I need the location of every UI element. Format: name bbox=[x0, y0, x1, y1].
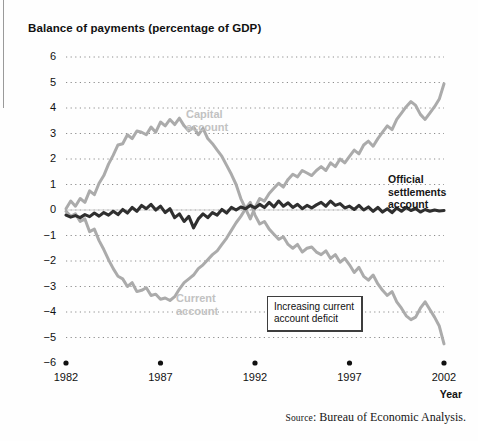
y-axis-tick-label: −6 bbox=[34, 356, 56, 368]
source-prefix: Source bbox=[285, 413, 313, 423]
y-axis-tick-label: −5 bbox=[34, 331, 56, 343]
series-label-capital-account: Capital account bbox=[186, 108, 228, 134]
y-axis-tick-label: −2 bbox=[34, 254, 56, 266]
series-label-current-line2: account bbox=[176, 305, 218, 318]
series-label-capital-line2: account bbox=[186, 121, 228, 134]
x-axis-tick-label: 1982 bbox=[36, 371, 96, 383]
annotation-increasing-current-account-deficit: Increasing current account deficit bbox=[267, 296, 363, 332]
x-axis-tick-label: 2002 bbox=[414, 371, 474, 383]
data-series-layer bbox=[66, 84, 444, 344]
series-label-official-settlements-account: Official settlements account bbox=[388, 173, 446, 211]
y-axis-tick-label: −1 bbox=[34, 229, 56, 241]
x-axis-tick-dot bbox=[252, 360, 257, 365]
plot-area: 6543210−1−2−3−4−5−6 19821987199219972002 bbox=[0, 0, 478, 441]
y-axis-tick-label: 1 bbox=[34, 178, 56, 190]
series-line-current-account bbox=[66, 202, 444, 344]
x-axis-tick-label: 1987 bbox=[131, 371, 191, 383]
x-axis-tick-dot bbox=[441, 360, 446, 365]
source-text: : Bureau of Economic Analysis. bbox=[313, 410, 466, 424]
series-label-capital-line1: Capital bbox=[186, 108, 228, 121]
source-note: Source: Bureau of Economic Analysis. bbox=[285, 410, 466, 425]
series-label-current-line1: Current bbox=[176, 292, 218, 305]
x-axis-title: Year bbox=[440, 388, 462, 400]
x-axis-tick-dot bbox=[63, 360, 68, 365]
y-axis-tick-label: 3 bbox=[34, 127, 56, 139]
x-axis-tick-dot bbox=[347, 360, 352, 365]
y-axis-tick-label: −4 bbox=[34, 305, 56, 317]
x-axis-tick-label: 1997 bbox=[320, 371, 380, 383]
y-axis-tick-label: −3 bbox=[34, 280, 56, 292]
series-label-current-account: Current account bbox=[176, 292, 218, 318]
chart-figure: Balance of payments (percentage of GDP) … bbox=[0, 0, 478, 441]
x-axis-tick-dot bbox=[158, 360, 163, 365]
series-label-official-line1: Official bbox=[388, 173, 446, 186]
y-axis-tick-label: 5 bbox=[34, 76, 56, 88]
series-label-official-line2: settlements bbox=[388, 186, 446, 199]
x-tick-marks bbox=[63, 360, 446, 365]
series-label-official-line3: account bbox=[388, 198, 446, 211]
y-axis-tick-label: 2 bbox=[34, 152, 56, 164]
x-axis-tick-label: 1992 bbox=[225, 371, 285, 383]
y-axis-tick-label: 4 bbox=[34, 101, 56, 113]
y-axis-tick-label: 0 bbox=[34, 203, 56, 215]
y-axis-tick-label: 6 bbox=[34, 50, 56, 62]
